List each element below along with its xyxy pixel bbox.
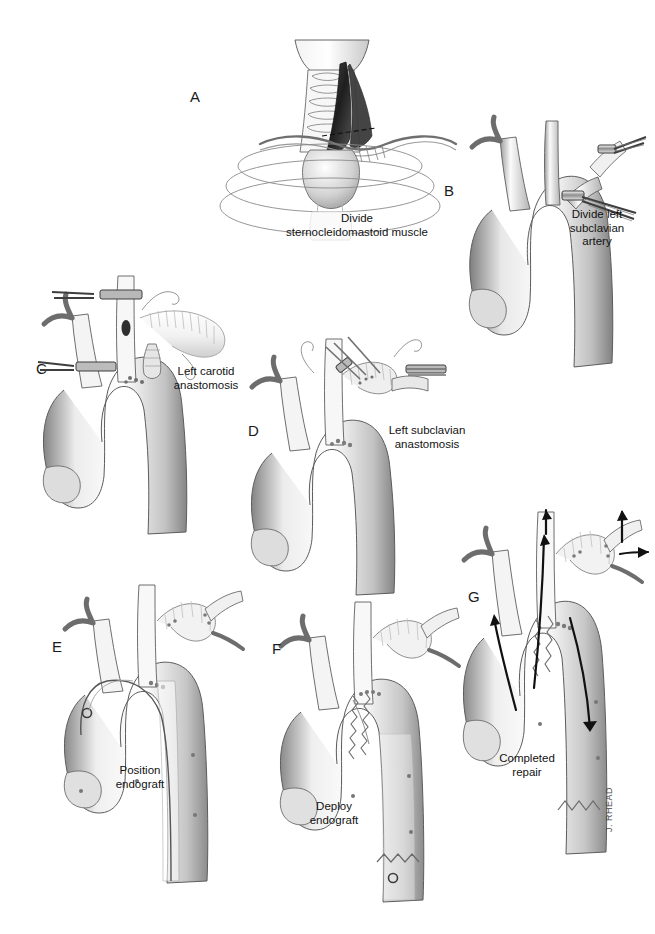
artist-signature: J. RHEAD xyxy=(604,787,614,832)
panel-letter-f: F xyxy=(272,640,281,657)
panel-a-artwork xyxy=(200,40,480,240)
surgical-illustration-figure: A Divide sternocleidomastoid muscle xyxy=(0,0,655,934)
panel-e-artwork xyxy=(45,585,260,885)
panel-letter-a: A xyxy=(190,88,200,105)
panel-caption-f: Deploy endograft xyxy=(292,800,376,827)
panel-f-artwork xyxy=(265,600,480,905)
panel-g-artwork xyxy=(450,510,655,855)
panel-caption-e: Position endograft xyxy=(98,764,182,791)
panel-letter-g: G xyxy=(468,588,480,605)
panel-caption-a: Divide sternocleidomastoid muscle xyxy=(272,212,442,239)
panel-caption-d: Left subclavian anastomosis xyxy=(372,424,482,451)
panel-d-artwork xyxy=(240,335,465,595)
panel-caption-c: Left carotid anastomosis xyxy=(160,365,252,392)
panel-caption-b: Divide left subclavian artery xyxy=(552,208,642,249)
panel-letter-c: C xyxy=(36,360,47,377)
panel-letter-d: D xyxy=(248,422,259,439)
panel-letter-b: B xyxy=(444,182,454,199)
panel-c-artwork xyxy=(30,270,255,535)
panel-letter-e: E xyxy=(52,638,62,655)
panel-caption-g: Completed repair xyxy=(484,752,570,779)
